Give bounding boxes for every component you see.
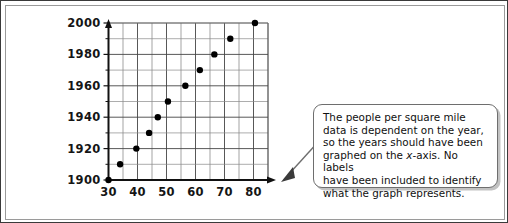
x-tick-label: 30 <box>100 185 117 199</box>
y-tick-label: 1940 <box>67 110 100 124</box>
data-point <box>117 161 123 167</box>
y-tick-label: 1900 <box>67 173 100 187</box>
x-tick-label: 50 <box>158 185 175 199</box>
scatter-chart: 190019201940196019802000 304050607080 <box>6 6 296 211</box>
callout-text: The people per square mile data is depen… <box>323 111 489 199</box>
inner-frame: 190019201940196019802000 304050607080 Th… <box>5 5 505 220</box>
x-tick-label: 70 <box>216 185 233 199</box>
y-tick-label: 1920 <box>67 142 100 156</box>
data-point <box>252 20 258 26</box>
data-point <box>227 36 233 42</box>
x-tick-label: 40 <box>129 185 146 199</box>
y-tick-label: 1980 <box>67 47 100 61</box>
data-point <box>197 67 203 73</box>
y-tick-label: 2000 <box>67 16 100 30</box>
x-tick-label: 80 <box>245 185 262 199</box>
x-axis-emphasis: x <box>406 149 412 161</box>
image-frame: 190019201940196019802000 304050607080 Th… <box>0 0 508 223</box>
x-tick-labels: 304050607080 <box>100 185 262 199</box>
callout-box: The people per square mile data is depen… <box>313 104 498 188</box>
data-point <box>165 98 171 104</box>
data-point <box>133 145 139 151</box>
data-point <box>105 177 111 183</box>
y-tick-labels: 190019201940196019802000 <box>67 16 100 187</box>
data-point <box>211 51 217 57</box>
grid-lines <box>109 23 269 180</box>
chart-svg: 190019201940196019802000 304050607080 <box>6 6 296 211</box>
data-point <box>155 114 161 120</box>
y-tick-label: 1960 <box>67 79 100 93</box>
data-point <box>182 83 188 89</box>
data-point <box>146 130 152 136</box>
x-tick-label: 60 <box>187 185 204 199</box>
x-axis-arrowhead <box>267 177 276 184</box>
